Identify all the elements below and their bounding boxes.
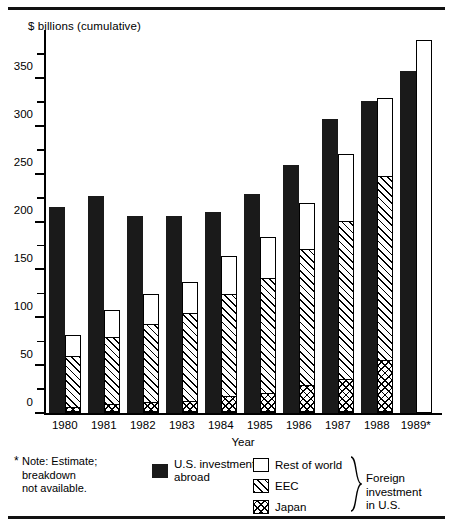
segment-japan	[377, 360, 393, 412]
top-rule	[8, 7, 445, 10]
y-tick-minor	[37, 293, 44, 295]
legend-item-us-investment[interactable]: U.S. investment abroad	[152, 458, 255, 484]
segment-japan	[104, 404, 120, 412]
segment-eec	[221, 294, 237, 412]
bar-group	[400, 30, 432, 413]
y-tick-label: 300	[14, 110, 33, 122]
segment-japan	[338, 379, 354, 413]
y-tick-major	[35, 125, 44, 127]
bottom-rule	[8, 516, 445, 519]
segment-eec	[182, 313, 198, 412]
y-tick-label: 50	[20, 349, 33, 361]
bar-series-container	[44, 30, 442, 415]
y-tick-major	[35, 77, 44, 79]
white-swatch-icon	[253, 458, 269, 472]
y-tick-major	[35, 364, 44, 366]
bar-foreign-investment	[104, 310, 120, 413]
legend-note-text: Note: Estimate; breakdown not available.	[22, 455, 97, 494]
bar-foreign-investment	[182, 282, 198, 413]
bar-foreign-investment	[221, 256, 237, 413]
bar-group	[88, 30, 120, 413]
segment-japan	[182, 401, 198, 412]
bar-us-investment-abroad	[400, 71, 416, 413]
bar-foreign-investment	[299, 203, 315, 413]
x-tick-label: 1980	[43, 419, 87, 431]
y-tick-minor	[37, 53, 44, 55]
bar-us-investment-abroad	[322, 119, 338, 413]
y-tick-major	[35, 173, 44, 175]
bar-us-investment-abroad	[361, 101, 377, 413]
legend-item-eec[interactable]: EEC	[253, 479, 299, 493]
x-tick-label: 1983	[160, 419, 204, 431]
bar-group	[166, 30, 198, 413]
segment-japan	[65, 407, 81, 412]
diagonal-hatch-swatch-icon	[253, 479, 269, 493]
bar-foreign-investment	[143, 294, 159, 413]
segment-japan	[299, 385, 315, 412]
x-tick-label: 1987	[316, 419, 360, 431]
x-tick-label: 1988	[355, 419, 399, 431]
x-tick-label: 1982	[121, 419, 165, 431]
bar-group	[361, 30, 393, 413]
y-tick-major	[35, 412, 44, 414]
asterisk-icon: *	[14, 455, 19, 469]
x-tick-label: 1986	[277, 419, 321, 431]
segment-japan	[221, 396, 237, 412]
chart-legend: *Note: Estimate; breakdown not available…	[0, 452, 453, 516]
x-tick-label: 1985	[238, 419, 282, 431]
x-tick-label: 1984	[199, 419, 243, 431]
chart-figure: $ billions (cumulative) 0501001502002503…	[0, 0, 453, 527]
y-tick-label: 150	[14, 253, 33, 265]
y-tick-minor	[37, 388, 44, 390]
legend-note: *Note: Estimate; breakdown not available…	[22, 455, 97, 496]
y-tick-major	[35, 268, 44, 270]
y-tick-label: 200	[14, 205, 33, 217]
segment-japan	[260, 393, 276, 412]
x-tick-label: 1989*	[394, 419, 438, 431]
legend-item-rest-of-world[interactable]: Rest of world	[253, 458, 342, 472]
y-tick-major	[35, 316, 44, 318]
x-tick-label: 1981	[82, 419, 126, 431]
y-tick-label: 250	[14, 157, 33, 169]
segment-japan	[143, 402, 159, 412]
y-tick-minor	[37, 101, 44, 103]
bar-foreign-investment	[65, 335, 81, 413]
solid-black-swatch-icon	[152, 464, 168, 478]
bar-group	[127, 30, 159, 413]
bar-us-investment-abroad	[283, 165, 299, 413]
segment-eec	[104, 337, 120, 412]
curly-brace-icon	[350, 456, 362, 512]
legend-label-japan: Japan	[275, 501, 306, 514]
bar-group	[244, 30, 276, 413]
bar-foreign-investment	[377, 98, 393, 413]
y-tick-major	[35, 221, 44, 223]
bar-foreign-investment	[416, 40, 432, 413]
legend-label-us-investment: U.S. investment abroad	[174, 458, 255, 484]
plot-area: 050100150200250300350 198019811982198319…	[44, 30, 442, 415]
cross-hatch-swatch-icon	[253, 500, 269, 514]
bar-group	[283, 30, 315, 413]
y-tick-label: 350	[14, 62, 33, 74]
y-tick-label: 0	[27, 397, 33, 409]
y-tick-minor	[37, 341, 44, 343]
segment-eec	[143, 324, 159, 412]
segment-eec	[65, 356, 81, 412]
x-axis-title: Year	[44, 436, 442, 448]
bar-group	[49, 30, 81, 413]
legend-label-eec: EEC	[275, 480, 299, 493]
bar-us-investment-abroad	[88, 196, 104, 413]
bar-us-investment-abroad	[49, 207, 65, 413]
y-tick-minor	[37, 197, 44, 199]
bar-us-investment-abroad	[166, 216, 182, 413]
legend-label-rest-of-world: Rest of world	[275, 459, 342, 472]
bar-us-investment-abroad	[205, 212, 221, 413]
bar-foreign-investment	[260, 237, 276, 413]
bar-group	[205, 30, 237, 413]
y-tick-minor	[37, 149, 44, 151]
legend-item-japan[interactable]: Japan	[253, 500, 306, 514]
bar-group	[322, 30, 354, 413]
legend-group-label-foreign-investment: Foreign investment in U.S.	[366, 472, 453, 513]
y-tick-label: 100	[14, 301, 33, 313]
y-tick-minor	[37, 245, 44, 247]
bar-us-investment-abroad	[127, 216, 143, 413]
